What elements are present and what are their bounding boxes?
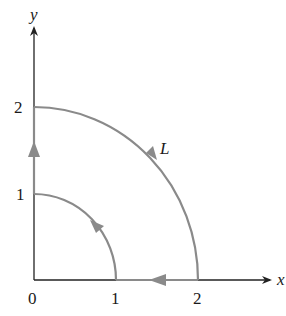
y-segment-arrow-icon xyxy=(28,141,40,157)
inner-arc xyxy=(34,194,116,280)
direction-arrows xyxy=(28,141,166,286)
y-tick-2-label: 2 xyxy=(14,98,23,117)
x-axis-label: x xyxy=(276,270,285,289)
origin-label: 0 xyxy=(28,289,37,308)
y-axis-label: y xyxy=(28,5,38,24)
contour-diagram: y x 0 1 2 2 1 L xyxy=(0,0,286,316)
outer-arc xyxy=(34,107,198,280)
x-segment-arrow-icon xyxy=(149,274,166,286)
contour-path xyxy=(34,107,198,280)
y-tick-1-label: 1 xyxy=(16,185,25,204)
x-tick-2-label: 2 xyxy=(193,289,202,308)
x-tick-1-label: 1 xyxy=(111,289,120,308)
curve-label: L xyxy=(159,139,169,158)
